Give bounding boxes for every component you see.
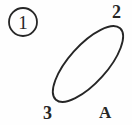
vertex-label-3: 3 <box>43 104 52 122</box>
vertex-label-2: 2 <box>112 3 121 21</box>
figure-container: 1 2 3 A <box>0 0 132 125</box>
vertex-label-a: A <box>99 104 111 121</box>
figure-index-label: 1 <box>0 0 46 44</box>
ellipse-shape <box>42 16 132 113</box>
